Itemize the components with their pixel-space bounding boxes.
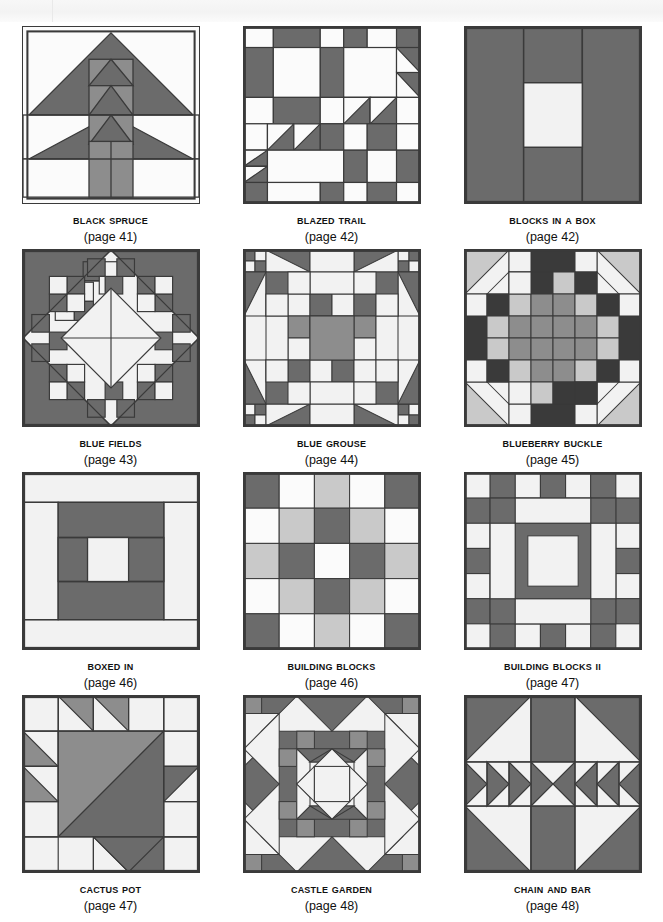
- block-title: Blue Fields: [79, 436, 141, 451]
- block-page-ref: (page 48): [291, 899, 372, 914]
- block-title: Building Blocks: [288, 659, 376, 674]
- block-page-ref: (page 42): [509, 230, 595, 245]
- block-title: Building Blocks II: [504, 659, 601, 674]
- block-card-blocks-in-a-box[interactable]: Blocks in a Box (page 42): [450, 26, 655, 249]
- scan-artifact-band: [0, 0, 663, 22]
- caption-black-spruce: Black Spruce (page 41): [73, 213, 148, 245]
- block-page-ref: (page 43): [79, 453, 141, 468]
- block-title: Blue Grouse: [297, 436, 366, 451]
- block-page-ref: (page 44): [297, 453, 366, 468]
- caption-blue-fields: Blue Fields (page 43): [79, 436, 141, 468]
- caption-castle-garden: Castle Garden (page 48): [291, 882, 372, 914]
- block-title: Blueberry Buckle: [503, 436, 603, 451]
- block-grid: Black Spruce (page 41): [0, 26, 663, 918]
- quilt-block-castle-garden: [243, 695, 421, 873]
- quilt-block-cactus-pot: [22, 695, 200, 873]
- block-card-cactus-pot[interactable]: Cactus Pot (page 47): [8, 695, 213, 918]
- caption-boxed-in: Boxed In (page 46): [84, 659, 138, 691]
- block-page-ref: (page 48): [514, 899, 591, 914]
- caption-blue-grouse: Blue Grouse (page 44): [297, 436, 366, 468]
- block-page-ref: (page 47): [80, 899, 141, 914]
- quilt-block-chain-and-bar: [464, 695, 642, 873]
- block-title: Blazed Trail: [297, 213, 366, 228]
- catalog-page: Black Spruce (page 41): [0, 0, 663, 922]
- caption-chain-and-bar: Chain and Bar (page 48): [514, 882, 591, 914]
- block-card-blazed-trail[interactable]: Blazed Trail (page 42): [229, 26, 434, 249]
- block-title: Chain and Bar: [514, 882, 591, 897]
- quilt-block-black-spruce: [22, 26, 200, 204]
- caption-cactus-pot: Cactus Pot (page 47): [80, 882, 141, 914]
- block-title: Castle Garden: [291, 882, 372, 897]
- block-card-building-blocks[interactable]: Building Blocks (page 46): [229, 472, 434, 695]
- caption-blazed-trail: Blazed Trail (page 42): [297, 213, 366, 245]
- block-card-blueberry-buckle[interactable]: Blueberry Buckle (page 45): [450, 249, 655, 472]
- block-title: Black Spruce: [73, 213, 148, 228]
- block-page-ref: (page 41): [73, 230, 148, 245]
- quilt-block-blue-fields: [22, 249, 200, 427]
- block-title: Blocks in a Box: [509, 213, 595, 228]
- quilt-block-blocks-in-a-box: [464, 26, 642, 204]
- quilt-block-blueberry-buckle: [464, 249, 642, 427]
- caption-building-blocks: Building Blocks (page 46): [288, 659, 376, 691]
- block-card-chain-and-bar[interactable]: Chain and Bar (page 48): [450, 695, 655, 918]
- block-card-blue-grouse[interactable]: Blue Grouse (page 44): [229, 249, 434, 472]
- block-card-building-blocks-ii[interactable]: Building Blocks II (page 47): [450, 472, 655, 695]
- block-page-ref: (page 47): [504, 676, 601, 691]
- block-page-ref: (page 45): [503, 453, 603, 468]
- block-title: Cactus Pot: [80, 882, 141, 897]
- block-card-blue-fields[interactable]: Blue Fields (page 43): [8, 249, 213, 472]
- caption-blueberry-buckle: Blueberry Buckle (page 45): [503, 436, 603, 468]
- block-card-black-spruce[interactable]: Black Spruce (page 41): [8, 26, 213, 249]
- quilt-block-building-blocks: [243, 472, 421, 650]
- caption-building-blocks-ii: Building Blocks II (page 47): [504, 659, 601, 691]
- block-page-ref: (page 46): [288, 676, 376, 691]
- block-page-ref: (page 42): [297, 230, 366, 245]
- block-page-ref: (page 46): [84, 676, 138, 691]
- quilt-block-blue-grouse: [243, 249, 421, 427]
- caption-blocks-in-a-box: Blocks in a Box (page 42): [509, 213, 595, 245]
- block-card-castle-garden[interactable]: Castle Garden (page 48): [229, 695, 434, 918]
- block-card-boxed-in[interactable]: Boxed In (page 46): [8, 472, 213, 695]
- quilt-block-blazed-trail: [243, 26, 421, 204]
- quilt-block-building-blocks-ii: [464, 472, 642, 650]
- block-title: Boxed In: [84, 659, 138, 674]
- quilt-block-boxed-in: [22, 472, 200, 650]
